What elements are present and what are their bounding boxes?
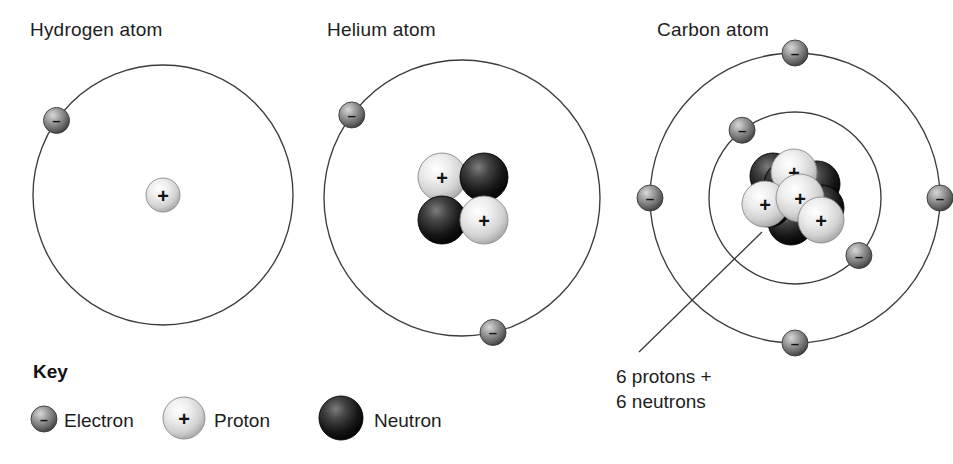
key-label-neutron: Neutron xyxy=(374,410,442,431)
electron-carbon-s1-1: – xyxy=(782,40,808,66)
atoms-layer: Hydrogen atom+–Helium atom++––Carbon ato… xyxy=(30,19,953,412)
electron-carbon-s1-3-sign: – xyxy=(936,190,944,207)
electron-hydrogen-s1-1: – xyxy=(44,107,70,133)
electron-sphere-icon: – xyxy=(31,406,57,432)
proton-hydrogen-1: + xyxy=(146,178,180,212)
proton-helium-1-sign: + xyxy=(436,167,448,189)
atom-title-hydrogen: Hydrogen atom xyxy=(30,19,163,40)
key-item-proton: +Proton xyxy=(163,397,270,439)
electron-carbon-s1-4-sign: – xyxy=(791,335,799,352)
electron-helium-s1-2: – xyxy=(480,319,506,345)
proton-carbon-10: + xyxy=(798,197,844,243)
proton-sphere-icon: + xyxy=(163,397,205,439)
electron-hydrogen-s1-1-sign: – xyxy=(52,112,60,129)
proton-carbon-10-sign: + xyxy=(815,210,827,232)
key-item-neutron: Neutron xyxy=(319,396,442,440)
key-label-electron: Electron xyxy=(64,410,134,431)
nucleus-carbon: ++++ xyxy=(742,149,844,245)
atom-carbon: Carbon atom6 protons +6 neutrons++++––––… xyxy=(616,19,953,412)
atom-hydrogen: Hydrogen atom+– xyxy=(30,19,293,325)
proton-hydrogen-1-sign: + xyxy=(157,185,169,207)
electron-carbon-s2-2-sign: – xyxy=(855,248,863,265)
neutron-helium-2-sphere xyxy=(460,153,508,201)
atom-helium: Helium atom++–– xyxy=(324,19,600,345)
electron-carbon-s1-2-sign: – xyxy=(646,190,654,207)
proton-sphere-icon-sign: + xyxy=(178,408,190,430)
neutron-helium-3 xyxy=(418,196,466,244)
proton-helium-1: + xyxy=(418,153,466,201)
diagram-canvas: Hydrogen atom+–Helium atom++––Carbon ato… xyxy=(0,0,953,464)
electron-helium-s1-1: – xyxy=(339,102,365,128)
electron-carbon-s2-2: – xyxy=(846,243,872,269)
key-item-electron: –Electron xyxy=(31,406,134,432)
proton-carbon-8-sign: + xyxy=(759,194,771,216)
neutron-sphere-icon xyxy=(319,396,363,440)
neutron-sphere-icon-sphere xyxy=(319,396,363,440)
neutron-helium-3-sphere xyxy=(418,196,466,244)
callout-text-line-2: 6 neutrons xyxy=(616,391,706,412)
atom-title-helium: Helium atom xyxy=(327,19,436,40)
atom-diagram-figure: Hydrogen atom+–Helium atom++––Carbon ato… xyxy=(0,0,953,464)
key-title: Key xyxy=(33,361,68,382)
electron-carbon-s2-1-sign: – xyxy=(738,122,746,139)
nucleus-helium: ++ xyxy=(418,153,508,244)
electron-carbon-s1-1-sign: – xyxy=(791,45,799,62)
electron-helium-s1-1-sign: – xyxy=(348,107,356,124)
callout-text-line-1: 6 protons + xyxy=(616,366,712,387)
electron-helium-s1-2-sign: – xyxy=(489,324,497,341)
proton-helium-4: + xyxy=(460,196,508,244)
key-label-proton: Proton xyxy=(214,410,270,431)
neutron-helium-2 xyxy=(460,153,508,201)
electron-carbon-s2-1: – xyxy=(729,117,755,143)
nucleus-hydrogen: + xyxy=(146,178,180,212)
electron-carbon-s1-3: – xyxy=(927,185,953,211)
proton-helium-4-sign: + xyxy=(478,210,490,232)
orbit-shell-1-helium xyxy=(324,60,600,336)
atom-title-carbon: Carbon atom xyxy=(657,19,769,40)
electron-sphere-icon-sign: – xyxy=(40,412,48,428)
electron-carbon-s1-4: – xyxy=(782,330,808,356)
key-legend: Key–Electron+ProtonNeutron xyxy=(31,361,442,440)
electron-carbon-s1-2: – xyxy=(637,185,663,211)
